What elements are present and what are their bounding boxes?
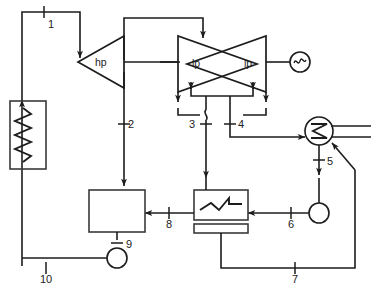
state-label-1: 1 — [48, 18, 54, 30]
state-label-6: 6 — [288, 218, 294, 230]
lp-turbine-right-label: lp — [244, 57, 252, 69]
state-label-7: 7 — [292, 273, 298, 285]
state-label-4: 4 — [238, 118, 244, 130]
pipe-extraction-3 — [205, 96, 207, 178]
state-label-3: 3 — [189, 118, 195, 130]
open-feedwater-heater — [89, 190, 145, 232]
condenser — [305, 117, 371, 145]
state-label-8: 8 — [166, 218, 172, 230]
diagram-canvas: hp lp lp — [0, 0, 371, 286]
steam-generator — [10, 101, 46, 169]
feedwater-pump — [107, 248, 127, 268]
state-label-10: 10 — [40, 273, 52, 285]
state-label-2: 2 — [128, 118, 134, 130]
pipe-cooling-return — [332, 143, 355, 170]
state-label-9: 9 — [126, 238, 132, 250]
process-flow-diagram: hp lp lp — [0, 0, 371, 286]
state-label-5: 5 — [327, 155, 333, 167]
hp-turbine: hp — [78, 36, 124, 88]
hp-turbine-label: hp — [95, 56, 107, 68]
condensate-pump — [309, 203, 329, 223]
generator — [290, 52, 310, 72]
pipe-exhaust-4-to-condenser — [230, 96, 305, 137]
pipe-hp-exhaust-reheat — [124, 18, 203, 60]
closed-feedwater-heater — [194, 190, 248, 233]
state-point-ticks — [44, 6, 325, 274]
